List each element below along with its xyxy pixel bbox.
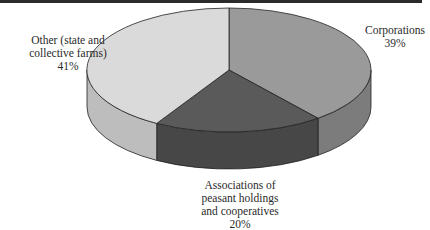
label-assoc-line3: and cooperatives	[175, 205, 305, 218]
label-assoc-line1: Associations of	[175, 179, 305, 192]
label-other: Other (state and collective farms) 41%	[2, 34, 134, 73]
label-other-pct: 41%	[2, 60, 134, 73]
label-associations: Associations of peasant holdings and coo…	[175, 179, 305, 230]
label-corporations: Corporations 39%	[360, 24, 430, 50]
label-corp-line1: Corporations	[360, 24, 430, 37]
label-other-line1: Other (state and	[2, 34, 134, 47]
label-assoc-line2: peasant holdings	[175, 192, 305, 205]
label-assoc-pct: 20%	[175, 218, 305, 230]
label-corp-pct: 39%	[360, 37, 430, 50]
label-other-line2: collective farms)	[2, 47, 134, 60]
